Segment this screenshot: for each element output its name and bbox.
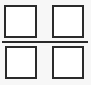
grid-layout-diagram (0, 0, 91, 85)
pane-top-right (52, 5, 84, 38)
pane-top-left (4, 5, 37, 38)
horizontal-divider (2, 41, 88, 43)
pane-bottom-right (52, 46, 84, 79)
pane-bottom-left (5, 46, 37, 79)
